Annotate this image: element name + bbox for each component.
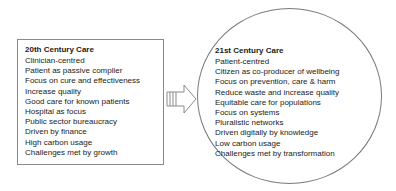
twenty-first-century-care-title: 21st Century Care [215, 46, 340, 56]
list-item: Patient-centred [215, 57, 340, 67]
list-item: Focus on systems [215, 108, 340, 118]
list-item: Clinician-centred [25, 56, 140, 66]
list-item: Challenges met by transformation [215, 149, 340, 159]
list-item: Patient as passive complier [25, 66, 140, 76]
list-item: Citizen as co-producer of wellbeing [215, 67, 340, 77]
list-item: Increase quality [25, 87, 140, 97]
list-item: Focus on cure and effectiveness [25, 76, 140, 86]
list-item: Equitable care for populations [215, 98, 340, 108]
list-item: Low carbon usage [215, 139, 340, 149]
list-item: Reduce waste and increase quality [215, 88, 340, 98]
twenty-first-century-care-content: 21st Century Care Patient-centred Citize… [215, 46, 340, 159]
list-item: High carbon usage [25, 138, 140, 148]
list-item: Good care for known patients [25, 97, 140, 107]
striped-right-arrow-icon [166, 83, 198, 115]
list-item: Public sector bureaucracy [25, 117, 140, 127]
twentieth-century-care-box: 20th Century Care Clinician-centred Pati… [17, 39, 164, 165]
list-item: Focus on prevention, care & harm [215, 77, 340, 87]
twenty-first-century-care-ellipse: 21st Century Care Patient-centred Citize… [197, 8, 382, 184]
list-item: Challenges met by growth [25, 148, 140, 158]
twentieth-century-care-title: 20th Century Care [25, 45, 140, 55]
twentieth-century-care-content: 20th Century Care Clinician-centred Pati… [25, 45, 140, 158]
list-item: Pluralistic networks [215, 118, 340, 128]
list-item: Driven by finance [25, 127, 140, 137]
list-item: Hospital as focus [25, 107, 140, 117]
list-item: Driven digitally by knowledge [215, 128, 340, 138]
